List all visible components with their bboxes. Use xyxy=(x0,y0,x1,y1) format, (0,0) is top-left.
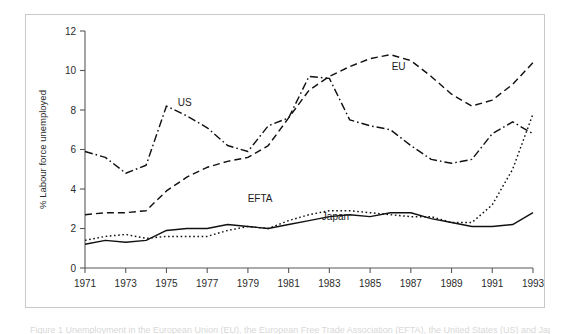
x-tick-label: 1987 xyxy=(400,278,423,289)
series-label-efta: EFTA xyxy=(248,193,273,204)
series-line-japan xyxy=(85,213,533,245)
y-tick-label: 8 xyxy=(70,105,76,116)
series-label-eu: EU xyxy=(392,61,406,72)
x-tick-marks xyxy=(85,268,533,273)
series-label-japan: Japan xyxy=(322,211,349,222)
y-tick-label: 4 xyxy=(70,184,76,195)
x-tick-labels: 1971197319751977197919811983198519871989… xyxy=(74,278,545,289)
x-tick-label: 1981 xyxy=(278,278,301,289)
line-chart: 024681012 % Labour force unemployed 1971… xyxy=(25,14,545,308)
x-tick-label: 1979 xyxy=(237,278,260,289)
y-axis-title: % Labour force unemployed xyxy=(37,90,48,209)
y-tick-label: 6 xyxy=(70,144,76,155)
x-tick-label: 1975 xyxy=(155,278,178,289)
figure-caption: Figure 1 Unemployment in the European Un… xyxy=(30,325,550,334)
y-tick-marks xyxy=(80,31,85,268)
y-axis-group: 024681012 % Labour force unemployed xyxy=(37,26,85,274)
y-tick-label: 12 xyxy=(65,26,77,37)
series-lines xyxy=(85,55,533,245)
x-tick-label: 1993 xyxy=(522,278,545,289)
y-tick-label: 2 xyxy=(70,223,76,234)
x-axis-group: 1971197319751977197919811983198519871989… xyxy=(74,268,545,289)
series-line-eu xyxy=(85,55,533,215)
x-tick-label: 1985 xyxy=(359,278,382,289)
x-tick-label: 1977 xyxy=(196,278,219,289)
x-tick-label: 1971 xyxy=(74,278,97,289)
x-tick-label: 1989 xyxy=(440,278,463,289)
figure-container: 024681012 % Labour force unemployed 1971… xyxy=(0,0,562,334)
y-tick-label: 0 xyxy=(70,263,76,274)
x-tick-label: 1983 xyxy=(318,278,341,289)
y-tick-labels: 024681012 xyxy=(65,26,77,274)
x-tick-label: 1973 xyxy=(115,278,138,289)
series-annotations: EUUSEFTAJapan xyxy=(178,61,406,222)
x-tick-label: 1991 xyxy=(481,278,504,289)
series-label-us: US xyxy=(178,97,192,108)
y-tick-label: 10 xyxy=(65,65,77,76)
series-line-efta xyxy=(85,114,533,240)
